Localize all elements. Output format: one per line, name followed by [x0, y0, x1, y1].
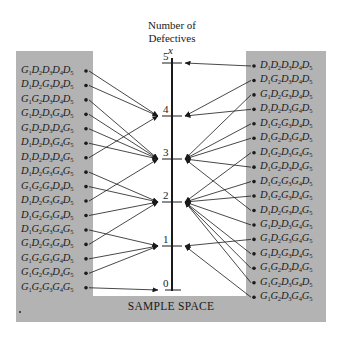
- outcome-dot: [84, 84, 88, 88]
- mapping-arrow: [185, 202, 251, 225]
- mapping-arrow: [89, 246, 158, 273]
- left-outcome-label: G1G2G3D4D5: [21, 180, 73, 192]
- outcome-dot: [84, 141, 88, 145]
- mapping-arrow: [89, 85, 158, 116]
- outcome-dot: [84, 199, 88, 203]
- mapping-arrow: [89, 288, 158, 290]
- left-outcome-label: D1D2D3D4G5: [21, 151, 73, 163]
- mapping-arrow: [89, 246, 158, 259]
- mapping-arrow: [185, 63, 251, 66]
- outcome-dot: [252, 79, 256, 83]
- outcome-dot: [84, 69, 88, 73]
- outcome-dot: [252, 209, 256, 213]
- outcome-dot: [252, 295, 256, 299]
- left-outcome-label: G1D2D3D4D5: [21, 64, 73, 76]
- right-outcome-label: D1D2D3D4D5: [260, 59, 312, 71]
- tick-label-4: 4: [163, 103, 169, 115]
- outcome-dot: [84, 127, 88, 131]
- mapping-arrow: [89, 172, 158, 202]
- outcome-dot: [252, 165, 256, 169]
- right-outcome-label: G1D2G3D4D5: [260, 88, 312, 100]
- outcome-dot: [252, 64, 256, 68]
- outcome-dot: [84, 286, 88, 290]
- mapping-arrow: [89, 129, 158, 159]
- mapping-arrow: [89, 159, 158, 201]
- outcome-dot: [252, 151, 256, 155]
- outcome-dot: [252, 180, 256, 184]
- mapping-arrow: [185, 95, 251, 159]
- mapping-arrow: [185, 202, 251, 254]
- outcome-dot: [84, 228, 88, 232]
- outcome-dot: [84, 170, 88, 174]
- outcome-dot: [252, 281, 256, 285]
- right-outcome-label: D1G2G3D4G5: [260, 189, 312, 201]
- right-outcome-label: D1G2G3D4D5: [260, 117, 312, 129]
- left-outcome-label: D1G2G3G4D5: [21, 209, 73, 221]
- right-outcome-label: D1G2D3D4D5: [260, 73, 312, 85]
- right-outcome-label: G1D2G3D4G5: [260, 247, 312, 259]
- sample-space-label: SAMPLE SPACE: [16, 300, 326, 312]
- tick-label-2: 2: [163, 189, 169, 201]
- outcome-dot: [84, 214, 88, 218]
- outcome-dot: [84, 98, 88, 102]
- outcome-dot: [84, 243, 88, 247]
- axis-title-line1: Number of: [130, 19, 214, 32]
- left-outcome-label: G1G2G3D4G5: [21, 266, 73, 278]
- left-outcome-label: G1D2G3G4D5: [21, 237, 73, 249]
- mapping-arrow: [185, 202, 251, 268]
- outcome-dot: [252, 136, 256, 140]
- outcome-dot: [84, 156, 88, 160]
- right-outcome-label: G1D2D3G4G5: [260, 218, 312, 230]
- left-outcome-label: D1G2G3G4G5: [21, 223, 73, 235]
- outcome-dot: [252, 238, 256, 242]
- left-outcome-label: G1G2G3G4D5: [21, 252, 73, 264]
- right-outcome-label: G1D2G3G4G5: [260, 232, 312, 244]
- outcome-dot: [252, 108, 256, 112]
- left-outcome-label: D1D2G3G4G5: [21, 165, 73, 177]
- outcome-dot: [84, 113, 88, 117]
- right-outcome-label: D1G2D3G4D5: [260, 131, 312, 143]
- right-outcome-label: D1D2G3D4G5: [260, 204, 312, 216]
- tick-label-3: 3: [163, 146, 169, 158]
- left-outcome-label: D1D2G3D4D5: [21, 78, 73, 90]
- outcome-dot: [252, 122, 256, 126]
- right-outcome-label: D1D2D3G4D5: [260, 102, 312, 114]
- left-outcome-label: G1D2D3D4G5: [21, 122, 73, 134]
- stray-mark: [19, 311, 21, 313]
- outcome-dot: [252, 252, 256, 256]
- outcome-dot: [252, 267, 256, 271]
- outcome-dot: [84, 272, 88, 276]
- tick-label-0: 0: [163, 277, 169, 289]
- outcome-dot: [252, 223, 256, 227]
- tick-label-5: 5: [163, 50, 169, 62]
- left-outcome-label: G1G2D3D4D5: [21, 93, 73, 105]
- outcome-dot: [84, 185, 88, 189]
- tick-label-1: 1: [163, 233, 169, 245]
- right-outcome-label: G1G2D3D4G5: [260, 261, 312, 273]
- left-outcome-label: G1G2G3G4G5: [21, 281, 73, 293]
- axis-title: Number of Defectives: [130, 19, 214, 45]
- right-outcome-label: D1G2D3D4G5: [260, 160, 312, 172]
- left-outcome-label: D1D2G3G4D5: [21, 194, 73, 206]
- right-outcome-label: D1G2G3G4D5: [260, 175, 312, 187]
- outcome-dot: [84, 257, 88, 261]
- outcome-dot: [252, 194, 256, 198]
- left-outcome-label: G1D2D3G4D5: [21, 107, 73, 119]
- mapping-arrow: [185, 246, 251, 297]
- right-outcome-label: D1G2D3G4G5: [260, 146, 312, 158]
- mapping-arrow: [89, 100, 158, 159]
- left-outcome-label: D1D2D3G4G5: [21, 136, 73, 148]
- mapping-arrows: [89, 63, 251, 297]
- right-outcome-label: G1G2D3G4D5: [260, 276, 312, 288]
- mapping-arrow: [185, 202, 251, 283]
- outcome-dot: [252, 93, 256, 97]
